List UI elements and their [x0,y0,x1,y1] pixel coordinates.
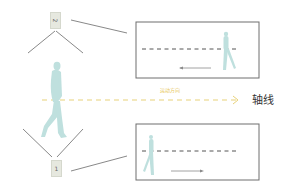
diagram-canvas [0,0,292,196]
top-camera-fov-right [56,31,83,53]
camera-1-icon: 1 [51,160,62,177]
camera-2-icon: 2 [50,12,61,29]
bottom-camera-fov-left [23,129,52,157]
camera-2-label: 2 [52,19,59,23]
axis-label: 轴线 [252,91,274,107]
top-camera-fov-left [28,31,55,53]
bottom-view-frame [136,124,259,180]
top-view-frame [136,22,259,78]
direction-label: 运动方向 [160,86,180,93]
top-connector-line [71,20,127,33]
camera-1-label: 1 [55,165,59,172]
bottom-connector-line [71,156,127,171]
